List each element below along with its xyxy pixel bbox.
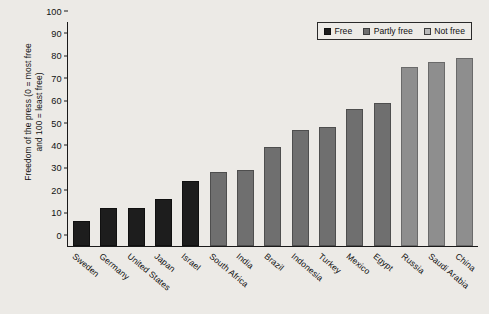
y-axis-tick: 40	[40, 140, 69, 151]
x-axis-label-slot: India	[231, 249, 258, 311]
x-axis-label: Turkey	[317, 251, 344, 276]
bar-japan[interactable]	[155, 199, 172, 246]
y-axis-tick-label: 40	[40, 140, 62, 150]
bar-slot	[177, 22, 204, 246]
x-axis-label-slot: Japan	[149, 249, 176, 311]
y-axis-tick: 0	[40, 230, 69, 241]
bar-slot	[150, 22, 177, 246]
x-axis-label: Japan	[152, 251, 177, 274]
bar-slot	[68, 22, 95, 246]
y-axis-tick-label: 10	[40, 208, 62, 218]
y-axis-tick-label: 50	[40, 118, 62, 128]
y-axis-tick: 60	[40, 95, 69, 106]
bar-india[interactable]	[237, 170, 254, 246]
bar-israel[interactable]	[182, 181, 199, 246]
x-axis-label: China	[454, 251, 478, 273]
bar-egypt[interactable]	[374, 103, 391, 246]
bar-turkey[interactable]	[319, 127, 336, 246]
x-axis-label-slot: China	[451, 249, 478, 311]
bar-slot	[123, 22, 150, 246]
x-axis-label-slot: Germany	[94, 249, 121, 311]
bar-slot	[232, 22, 259, 246]
y-axis-tick-label: 0	[40, 230, 62, 240]
legend-swatch-free	[324, 28, 331, 35]
y-axis-tick-label: 70	[40, 73, 62, 83]
y-axis-tick-label: 90	[40, 28, 62, 38]
legend-label: Partly free	[374, 26, 413, 36]
legend-swatch-partly	[363, 28, 370, 35]
x-axis-label: Russia	[399, 251, 426, 276]
x-axis-label-slot: Brazil	[259, 249, 286, 311]
legend-label: Free	[335, 26, 353, 36]
bar-slot	[451, 22, 478, 246]
y-axis-tick-label: 30	[40, 163, 62, 173]
bar-mexico[interactable]	[346, 109, 363, 246]
bar-slot	[287, 22, 314, 246]
y-axis-tick: 30	[40, 162, 69, 173]
bar-germany[interactable]	[100, 208, 117, 246]
y-axis-title: Freedom of the press (0 = most free and …	[17, 17, 51, 207]
x-axis-label-slot: Sweden	[67, 249, 94, 311]
y-axis-tick: 50	[40, 118, 69, 129]
x-axis-label-slot: South Africa	[204, 249, 231, 311]
bar-slot	[423, 22, 450, 246]
bar-united-states[interactable]	[128, 208, 145, 246]
bar-slot	[314, 22, 341, 246]
y-axis-tick: 70	[40, 73, 69, 84]
y-axis-tick: 100	[40, 6, 69, 17]
x-axis-label-slot: United States	[122, 249, 149, 311]
bar-series	[68, 22, 478, 246]
x-axis-label-slot: Russia	[396, 249, 423, 311]
x-axis-label: Israel	[180, 251, 203, 273]
x-axis-label: India	[235, 251, 256, 271]
x-axis-label: Egypt	[372, 251, 396, 273]
bar-indonesia[interactable]	[292, 130, 309, 246]
y-axis-tick: 80	[40, 50, 69, 61]
x-axis-label-slot: Mexico	[341, 249, 368, 311]
bar-slot	[259, 22, 286, 246]
bar-china[interactable]	[456, 58, 473, 246]
x-axis-labels: SwedenGermanyUnited StatesJapanIsraelSou…	[67, 249, 478, 311]
bar-slot	[369, 22, 396, 246]
legend-item-partly[interactable]: Partly free	[363, 26, 413, 36]
y-axis-tick-label: 80	[40, 51, 62, 61]
x-axis-label-slot: Indonesia	[286, 249, 313, 311]
x-axis-label-slot: Egypt	[368, 249, 395, 311]
legend-label: Not free	[434, 26, 465, 36]
y-axis-title-line1: Freedom of the press (0 = most free	[23, 43, 34, 180]
chart-legend: FreePartly freeNot free	[317, 22, 472, 40]
y-axis-tick: 20	[40, 185, 69, 196]
x-axis-label-slot: Turkey	[314, 249, 341, 311]
x-axis-label: Brazil	[262, 251, 285, 273]
y-axis-tick: 90	[40, 28, 69, 39]
bar-slot	[95, 22, 122, 246]
bar-brazil[interactable]	[264, 147, 281, 246]
x-axis-label-slot: Israel	[177, 249, 204, 311]
bar-saudi-arabia[interactable]	[428, 62, 445, 246]
bar-slot	[341, 22, 368, 246]
plot-area: 0102030405060708090100	[67, 22, 478, 247]
bar-slot	[205, 22, 232, 246]
y-axis-tick: 10	[40, 207, 69, 218]
x-axis-label-slot: Saudi Arabia	[423, 249, 450, 311]
press-freedom-bar-chart: Freedom of the press (0 = most free and …	[0, 0, 489, 314]
y-axis-tick-label: 20	[40, 185, 62, 195]
bar-south-africa[interactable]	[210, 172, 227, 246]
bar-slot	[396, 22, 423, 246]
legend-item-free[interactable]: Free	[324, 26, 352, 36]
y-axis-tick-label: 100	[40, 6, 62, 16]
y-axis-tick-mark	[64, 11, 68, 12]
bar-sweden[interactable]	[73, 221, 90, 246]
bar-russia[interactable]	[401, 67, 418, 246]
legend-item-notfree[interactable]: Not free	[424, 26, 465, 36]
legend-swatch-notfree	[424, 28, 431, 35]
y-axis-tick-label: 60	[40, 96, 62, 106]
